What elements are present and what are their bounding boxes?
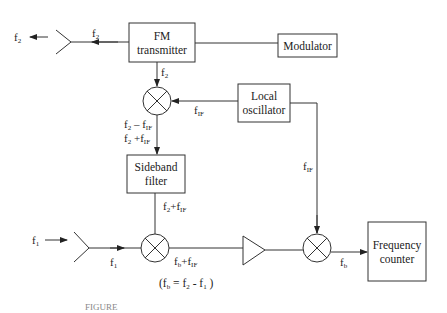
fm-transmitter-line2: transmitter	[137, 43, 187, 57]
beat-frequency-equation: (fb = f2 - f1 )	[159, 277, 213, 293]
signal-fb-out: fb	[340, 256, 347, 272]
rx-antenna-icon	[74, 232, 89, 262]
figure-caption: FIGURE	[85, 301, 118, 313]
fm-transmitter-line1: FM	[154, 29, 171, 43]
signal-f2-tx: f2	[92, 27, 99, 43]
signal-filter-out: f2+fIF	[163, 200, 186, 216]
local-oscillator-line2: oscillator	[243, 103, 286, 117]
signal-fif-lo: fIF	[194, 104, 204, 120]
sideband-filter-line2: filter	[145, 174, 167, 188]
signal-f2-down: f2	[161, 66, 168, 82]
local-oscillator-label: Local oscillator	[238, 84, 290, 122]
signal-f2-out: f2	[14, 31, 21, 47]
mixer-3-icon	[303, 234, 331, 262]
amplifier-icon	[243, 236, 265, 265]
tx-antenna-icon	[56, 30, 71, 54]
fm-transmitter-label: FM transmitter	[129, 23, 195, 62]
frequency-counter-line2: counter	[380, 252, 414, 266]
local-oscillator-line1: Local	[251, 89, 277, 103]
signal-f1-in: f1	[32, 234, 39, 250]
modulator-label: Modulator	[278, 34, 337, 57]
signal-mixer1-out-sum: f2 +fIF	[124, 132, 150, 148]
modulator-text: Modulator	[283, 39, 332, 53]
signal-mixer2-out: fb+fIF	[174, 255, 197, 271]
mixer-1-icon	[143, 87, 171, 115]
signal-f1-antenna: f1	[110, 256, 117, 272]
frequency-counter-label: Frequency counter	[368, 222, 426, 281]
sideband-filter-label: Sideband filter	[127, 155, 185, 193]
sideband-filter-line1: Sideband	[135, 160, 178, 174]
frequency-counter-line1: Frequency	[373, 238, 422, 252]
mixer-2-icon	[141, 234, 169, 262]
signal-fif-right: fIF	[303, 160, 313, 176]
